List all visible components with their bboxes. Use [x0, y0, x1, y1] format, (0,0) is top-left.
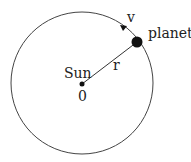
sun-label: Sun: [64, 65, 92, 81]
orbit-diagram: v planet Sun 0 r: [0, 0, 191, 162]
velocity-label: v: [126, 9, 135, 25]
radius-label: r: [113, 57, 120, 73]
origin-label: 0: [78, 88, 87, 104]
orbit-svg: v planet Sun 0 r: [0, 0, 191, 162]
planet-label: planet: [148, 25, 191, 41]
sun-dot: [80, 82, 85, 87]
velocity-arrow-icon: [120, 25, 127, 31]
planet-dot: [132, 37, 143, 48]
